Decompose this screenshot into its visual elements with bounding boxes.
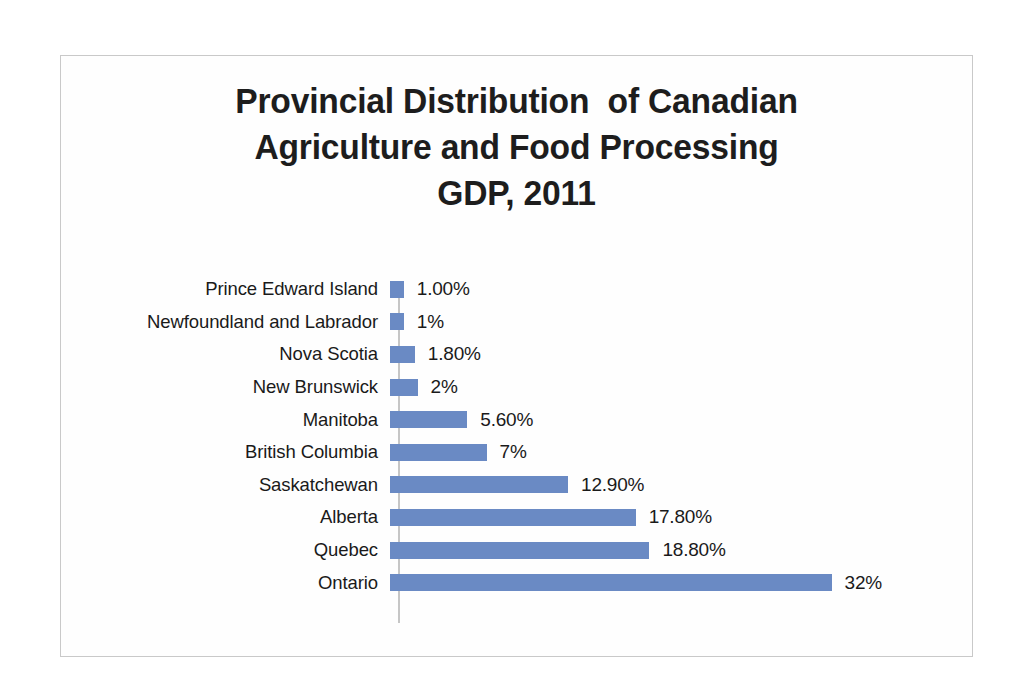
category-label-manitoba: Manitoba <box>61 409 388 431</box>
chart-frame: Provincial Distribution of Canadian Agri… <box>60 55 973 657</box>
bar-value-british-columbia: 7% <box>487 441 527 463</box>
bar-value-prince-edward-island: 1.00% <box>404 278 470 300</box>
category-label-quebec: Quebec <box>61 539 388 561</box>
bar-prince-edward-island[interactable] <box>390 281 404 298</box>
bar-value-nova-scotia: 1.80% <box>415 343 481 365</box>
bar-track: 18.80% <box>388 534 972 567</box>
bar-new-brunswick[interactable] <box>390 379 418 396</box>
bar-row: Alberta 17.80% <box>61 501 972 534</box>
bar-track: 1.80% <box>388 338 972 371</box>
bar-nova-scotia[interactable] <box>390 346 415 363</box>
bar-row: Manitoba 5.60% <box>61 403 972 436</box>
category-label-ontario: Ontario <box>61 572 388 594</box>
bar-ontario[interactable] <box>390 574 832 591</box>
bar-value-ontario: 32% <box>832 572 882 594</box>
bar-row: Prince Edward Island 1.00% <box>61 273 972 306</box>
bar-row: New Brunswick 2% <box>61 371 972 404</box>
bar-row: Saskatchewan 12.90% <box>61 469 972 502</box>
bar-row: Ontario 32% <box>61 566 972 599</box>
bar-track: 7% <box>388 436 972 469</box>
bar-track: 5.60% <box>388 403 972 436</box>
bar-row: Newfoundland and Labrador 1% <box>61 306 972 339</box>
bar-track: 2% <box>388 371 972 404</box>
bar-alberta[interactable] <box>390 509 636 526</box>
bar-row: Quebec 18.80% <box>61 534 972 567</box>
bar-track: 17.80% <box>388 501 972 534</box>
bar-row: Nova Scotia 1.80% <box>61 338 972 371</box>
bar-british-columbia[interactable] <box>390 444 487 461</box>
bar-manitoba[interactable] <box>390 411 467 428</box>
bar-track: 1% <box>388 306 972 339</box>
bar-track: 32% <box>388 566 972 599</box>
category-label-saskatchewan: Saskatchewan <box>61 474 388 496</box>
category-label-prince-edward-island: Prince Edward Island <box>61 278 388 300</box>
bar-value-alberta: 17.80% <box>636 506 712 528</box>
bar-track: 12.90% <box>388 469 972 502</box>
category-label-alberta: Alberta <box>61 506 388 528</box>
bar-track: 1.00% <box>388 273 972 306</box>
category-label-new-brunswick: New Brunswick <box>61 376 388 398</box>
bar-value-manitoba: 5.60% <box>467 409 533 431</box>
category-label-newfoundland-and-labrador: Newfoundland and Labrador <box>61 311 388 333</box>
bar-value-quebec: 18.80% <box>649 539 725 561</box>
category-label-nova-scotia: Nova Scotia <box>61 343 388 365</box>
chart-title: Provincial Distribution of Canadian Agri… <box>79 78 954 216</box>
chart-title-line-1: Provincial Distribution of Canadian <box>79 78 954 124</box>
chart-title-line-3: GDP, 2011 <box>79 170 954 216</box>
bar-row: British Columbia 7% <box>61 436 972 469</box>
category-label-british-columbia: British Columbia <box>61 441 388 463</box>
bar-quebec[interactable] <box>390 542 649 559</box>
bar-value-new-brunswick: 2% <box>418 376 458 398</box>
plot-area: Prince Edward Island 1.00% Newfoundland … <box>61 273 972 638</box>
bar-newfoundland-and-labrador[interactable] <box>390 313 404 330</box>
bar-value-saskatchewan: 12.90% <box>568 474 644 496</box>
chart-title-line-2: Agriculture and Food Processing <box>79 124 954 170</box>
bar-value-newfoundland-and-labrador: 1% <box>404 311 444 333</box>
bar-saskatchewan[interactable] <box>390 476 568 493</box>
